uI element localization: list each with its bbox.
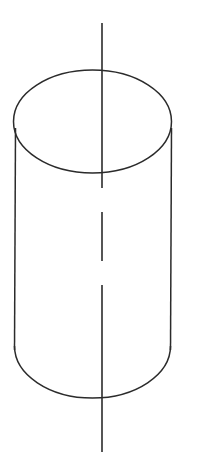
drawing-canvas [0,0,205,458]
cylinder-figure [0,0,205,458]
cylinder-right-wall [171,128,172,350]
cylinder-left-wall [15,128,16,350]
